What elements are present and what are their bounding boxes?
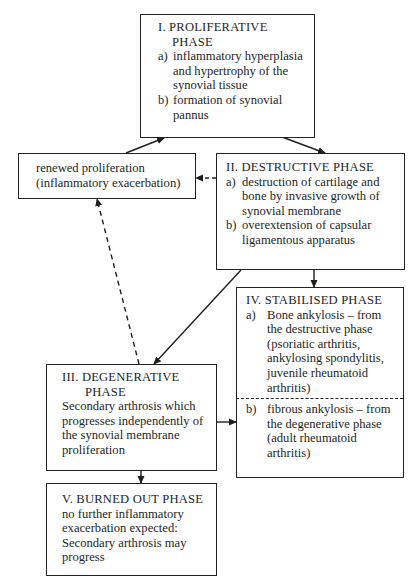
- node-item: a) destruction of cartilage and bone by …: [226, 175, 398, 219]
- arrow-destructive-to-degenerative: [154, 270, 241, 364]
- item-label: b): [246, 402, 267, 460]
- node-text: Secondary arthrosis which progresses ind…: [62, 399, 212, 457]
- node-item: a) Bone ankylosis – from the destructive…: [237, 308, 399, 399]
- arrow-renewed-to-proliferative: [126, 138, 164, 153]
- node-title: IV. STABILISED PHASE: [237, 293, 399, 308]
- arrow-degenerative-to-renewed: [97, 199, 139, 364]
- node-text-line2: (inflammatory exacerbation): [36, 176, 195, 191]
- item-text: overextension of capsular ligamentous ap…: [242, 218, 398, 247]
- node-title: II. DESTRUCTIVE PHASE: [226, 160, 398, 175]
- node-item: b) formation of synovial pannus: [158, 93, 308, 122]
- node-degenerative-phase: III. DEGENERATIVE PHASE Secondary arthro…: [46, 364, 217, 471]
- node-renewed-proliferation: renewed proliferation (inflammatory exac…: [18, 153, 196, 199]
- item-text: formation of synovial pannus: [173, 93, 308, 122]
- item-label: a): [226, 175, 242, 219]
- node-title: III. DEGENERATIVE: [62, 370, 212, 385]
- item-label: b): [226, 218, 242, 247]
- node-burned-out-phase: V. BURNED OUT PHASE no further inflammat…: [46, 483, 217, 576]
- item-label: b): [158, 93, 172, 122]
- item-text: inflammatory hyperplasia and hypertrophy…: [173, 49, 308, 93]
- item-text: Bone ankylosis – from the destructive ph…: [267, 308, 399, 396]
- node-title-cont: PHASE: [62, 385, 212, 400]
- node-item: b) overextension of capsular ligamentous…: [226, 218, 398, 247]
- node-text: no further inflammatory exacerbation exp…: [62, 507, 212, 565]
- node-item: b) fibrous ankylosis – from the degenera…: [237, 399, 399, 460]
- arrow-proliferative-to-destructive: [282, 137, 325, 153]
- item-text: fibrous ankylosis – from the degenerativ…: [267, 402, 399, 460]
- node-destructive-phase: II. DESTRUCTIVE PHASE a) destruction of …: [216, 153, 405, 270]
- item-label: a): [158, 49, 172, 93]
- node-proliferative-phase: I. PROLIFERATIVE PHASE a) inflammatory h…: [140, 14, 315, 138]
- node-stabilised-phase: IV. STABILISED PHASE a) Bone ankylosis –…: [236, 287, 404, 478]
- node-text-line1: renewed proliferation: [36, 161, 195, 176]
- node-title-cont: PHASE: [158, 35, 308, 50]
- item-label: a): [246, 308, 267, 396]
- item-text: destruction of cartilage and bone by inv…: [242, 175, 398, 219]
- node-title: I. PROLIFERATIVE: [158, 20, 308, 35]
- node-title: V. BURNED OUT PHASE: [62, 492, 212, 507]
- node-item: a) inflammatory hyperplasia and hypertro…: [158, 49, 308, 93]
